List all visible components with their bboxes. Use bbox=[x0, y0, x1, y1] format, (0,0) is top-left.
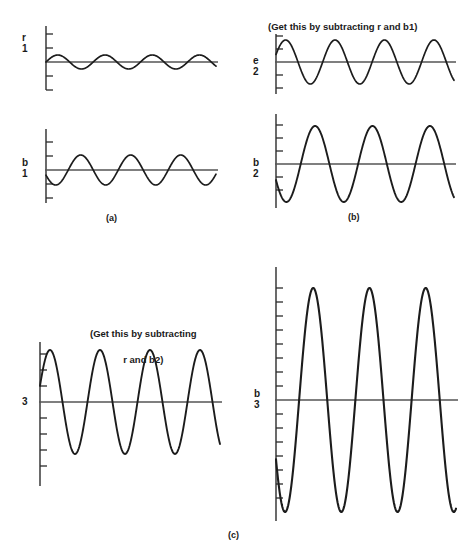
panel-r3-axis-label: 3 bbox=[22, 396, 28, 407]
panel-e2-plot bbox=[270, 32, 458, 96]
panel-r3-plot bbox=[34, 340, 224, 488]
panel-b2-plot bbox=[270, 112, 458, 210]
figure-root: r 1 b 1 (a) (Get this by subtracting r a… bbox=[0, 0, 468, 559]
panel-b3 bbox=[270, 265, 460, 523]
panel-b3-plot bbox=[270, 265, 460, 523]
panel-r1 bbox=[40, 22, 220, 92]
panel-r1-subscript: 1 bbox=[22, 43, 28, 54]
panel-r3 bbox=[34, 340, 224, 488]
panel-r1-axis-label: r 1 bbox=[22, 32, 28, 54]
panel-b2 bbox=[270, 112, 458, 210]
panel-b1-symbol: b bbox=[22, 157, 28, 168]
panel-b1-subscript: 1 bbox=[22, 168, 28, 179]
group-label-b: (b) bbox=[348, 212, 360, 222]
panel-b1 bbox=[40, 125, 220, 207]
panel-e2 bbox=[270, 32, 458, 96]
panel-r1-plot bbox=[40, 22, 220, 92]
panel-b3-symbol: b bbox=[254, 388, 260, 399]
panel-b3-subscript: 3 bbox=[254, 399, 260, 410]
panel-b1-plot bbox=[40, 125, 220, 207]
panel-b2-subscript: 2 bbox=[253, 168, 259, 179]
panel-e2-subscript: 2 bbox=[253, 66, 259, 77]
caption-c-line1: (Get this by subtracting bbox=[90, 328, 197, 339]
panel-b2-symbol: b bbox=[253, 157, 259, 168]
panel-b2-axis-label: b 2 bbox=[253, 157, 259, 179]
group-label-a: (a) bbox=[106, 213, 117, 223]
panel-r1-symbol: r bbox=[22, 32, 28, 43]
panel-e2-symbol: e bbox=[253, 55, 259, 66]
panel-b1-axis-label: b 1 bbox=[22, 157, 28, 179]
group-label-c: (c) bbox=[228, 530, 239, 540]
panel-e2-axis-label: e 2 bbox=[253, 55, 259, 77]
panel-b3-axis-label: b 3 bbox=[254, 388, 260, 410]
panel-r3-subscript: 3 bbox=[22, 396, 28, 407]
